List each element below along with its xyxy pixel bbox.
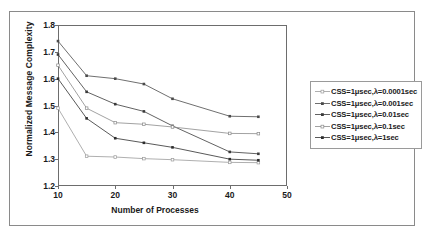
y-tick-label: 1.7 — [43, 47, 55, 57]
x-tick-label: 30 — [168, 190, 177, 200]
y-axis-title: Normalized Message Complexity — [24, 0, 34, 184]
series-marker — [257, 115, 260, 118]
series-marker — [85, 117, 88, 120]
y-tick-label: 1.6 — [43, 74, 55, 84]
x-tick-mark — [287, 186, 288, 189]
series-marker — [85, 74, 88, 77]
series-marker — [228, 161, 231, 164]
series-marker — [228, 115, 231, 118]
figure-panel: Normalized Message Complexity Number of … — [9, 11, 415, 226]
series-marker — [85, 91, 88, 94]
legend: CSS=1μsec,λ=0.0001secCSS=1μsec,λ=0.001se… — [310, 81, 422, 149]
series-marker — [171, 126, 174, 129]
legend-label: CSS=1μsec,λ=0.1sec — [331, 122, 405, 131]
series-marker — [143, 157, 146, 160]
series-marker — [114, 121, 117, 124]
x-tick-label: 10 — [53, 190, 62, 200]
legend-item: CSS=1μsec,λ=0.1sec — [314, 121, 418, 133]
legend-marker-icon — [314, 109, 331, 120]
legend-item: CSS=1μsec,λ=1sec — [314, 132, 418, 144]
series-marker — [57, 53, 60, 56]
series-marker — [114, 137, 117, 140]
legend-item: CSS=1μsec,λ=0.01sec — [314, 109, 418, 121]
series-marker — [143, 123, 146, 126]
series-marker — [57, 77, 60, 80]
x-tick-label: 20 — [111, 190, 120, 200]
y-tick-label: 1.4 — [43, 127, 55, 137]
series-marker — [143, 83, 146, 86]
legend-label: CSS=1μsec,λ=0.0001sec — [331, 87, 417, 96]
data-series — [57, 77, 260, 161]
series-marker — [114, 103, 117, 106]
series-marker — [228, 132, 231, 135]
legend-label: CSS=1μsec,λ=0.01sec — [331, 110, 409, 119]
x-tick-mark — [230, 186, 231, 189]
series-marker — [143, 142, 146, 145]
series-marker — [114, 77, 117, 80]
series-marker — [257, 132, 260, 135]
data-series — [57, 53, 260, 155]
legend-item: CSS=1μsec,λ=0.0001sec — [314, 86, 418, 98]
x-tick-label: 40 — [225, 190, 234, 200]
data-series — [57, 40, 260, 118]
series-marker — [171, 146, 174, 149]
series-marker — [57, 64, 60, 67]
series-line — [58, 41, 258, 117]
series-marker — [143, 110, 146, 113]
x-axis-title: Number of Processes — [10, 205, 300, 215]
legend-item: CSS=1μsec,λ=0.001sec — [314, 98, 418, 110]
series-marker — [57, 107, 60, 110]
y-tick-label: 1.3 — [43, 154, 55, 164]
x-tick-mark — [58, 186, 59, 189]
series-marker — [228, 158, 231, 161]
legend-label: CSS=1μsec,λ=1sec — [331, 133, 399, 142]
series-marker — [257, 161, 260, 164]
series-marker — [85, 107, 88, 110]
x-tick-label: 50 — [282, 190, 291, 200]
series-marker — [171, 97, 174, 100]
series-line — [58, 55, 258, 154]
y-tick-label: 1.8 — [43, 20, 55, 30]
series-marker — [257, 159, 260, 162]
series-marker — [85, 155, 88, 158]
series-marker — [57, 40, 60, 43]
x-tick-mark — [115, 186, 116, 189]
y-tick-label: 1.5 — [43, 101, 55, 111]
legend-label: CSS=1μsec,λ=0.001sec — [331, 99, 413, 108]
data-series-layer — [58, 25, 287, 186]
series-line — [58, 79, 258, 161]
series-marker — [171, 158, 174, 161]
plot-area: 1.21.31.41.51.61.71.8 1020304050 — [58, 25, 287, 186]
legend-marker-icon — [314, 121, 331, 132]
legend-marker-icon — [314, 86, 331, 97]
series-line — [58, 108, 258, 162]
legend-marker-icon — [314, 98, 331, 109]
series-marker — [228, 151, 231, 154]
series-marker — [257, 153, 260, 156]
x-tick-mark — [173, 186, 174, 189]
series-marker — [114, 156, 117, 159]
legend-marker-icon — [314, 132, 331, 143]
